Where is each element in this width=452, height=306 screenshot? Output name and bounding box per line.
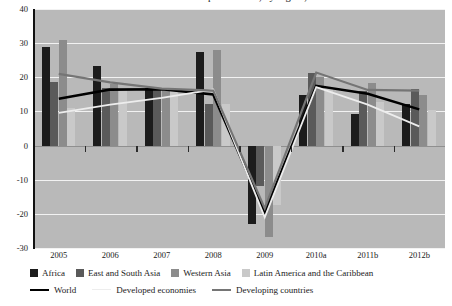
legend-row-bars: AfricaEast and South AsiaWestern AsiaLat… <box>0 264 452 281</box>
chart-title: Growth in merchandise export volume, by … <box>0 0 452 5</box>
x-tick-label-2012b: 2012b <box>389 250 449 260</box>
gridline--30 <box>33 248 445 249</box>
legend-label: East and South Asia <box>88 268 160 278</box>
legend-line-icon <box>30 289 49 291</box>
x-axis-labels: 200520062007200820092010a2011b2012b <box>33 250 445 264</box>
y-axis-line <box>33 9 35 249</box>
line-series-layer <box>33 9 445 248</box>
legend-label: Africa <box>42 268 65 278</box>
legend-label: Developed economies <box>116 285 196 295</box>
legend-item-world[interactable]: World <box>30 285 76 295</box>
y-tick-label-20: 20 <box>2 72 28 82</box>
x-axis-tick-1 <box>85 146 87 152</box>
y-tick-label--30: -30 <box>2 243 28 253</box>
y-tick-label-40: 40 <box>2 4 28 14</box>
legend-item-western-asia[interactable]: Western Asia <box>171 268 231 278</box>
chart-legend: AfricaEast and South AsiaWestern AsiaLat… <box>0 264 452 298</box>
legend-swatch-icon <box>30 269 38 277</box>
x-axis-tick-4 <box>239 146 241 152</box>
legend-item-africa[interactable]: Africa <box>30 268 65 278</box>
x-axis-tick-6 <box>342 146 344 152</box>
y-axis-labels: 403020100-10-20-30 <box>0 0 30 306</box>
chart-figure: Growth in merchandise export volume, by … <box>0 0 452 306</box>
legend-item-east-and-south-asia[interactable]: East and South Asia <box>76 268 160 278</box>
y-tick-label--20: -20 <box>2 209 28 219</box>
legend-label: Developing countries <box>236 285 313 295</box>
legend-swatch-icon <box>242 269 250 277</box>
legend-line-icon <box>212 289 231 291</box>
legend-line-icon <box>92 289 111 290</box>
x-axis-tick-3 <box>188 146 190 152</box>
legend-label: World <box>54 285 76 295</box>
legend-label: Latin America and the Caribbean <box>254 268 373 278</box>
legend-swatch-icon <box>76 269 84 277</box>
legend-item-latin-america-and-the-caribbean[interactable]: Latin America and the Caribbean <box>242 268 373 278</box>
legend-item-developing-countries[interactable]: Developing countries <box>212 285 313 295</box>
x-axis-tick-5 <box>291 146 293 152</box>
y-tick-label-0: 0 <box>2 141 28 151</box>
legend-swatch-icon <box>171 269 179 277</box>
x-axis-tick-2 <box>136 146 138 152</box>
plot-area <box>33 9 445 248</box>
x-axis-tick-7 <box>394 146 396 152</box>
legend-row-lines: WorldDeveloped economiesDeveloping count… <box>0 281 452 298</box>
y-tick-label--10: -10 <box>2 175 28 185</box>
legend-label: Western Asia <box>183 268 231 278</box>
legend-item-developed-economies[interactable]: Developed economies <box>92 285 196 295</box>
y-tick-label-10: 10 <box>2 106 28 116</box>
y-tick-label-30: 30 <box>2 38 28 48</box>
